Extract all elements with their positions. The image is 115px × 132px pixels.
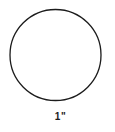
circle-shape	[10, 10, 101, 101]
diameter-label: 1"	[0, 111, 115, 122]
diagram-canvas: 1"	[0, 0, 115, 132]
